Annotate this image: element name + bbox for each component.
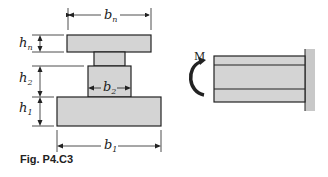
beam-side-view [214,49,315,111]
moment-arrow: M [191,50,206,95]
label-b1: b1 [104,137,117,154]
moment-label: M [194,50,205,63]
figure-caption: Fig. P4.C3 [20,153,73,165]
label-h2: h2 [19,70,32,87]
label-hn: hn [19,35,33,52]
dimension-hn: hn [19,35,64,52]
dimension-h2: h2 [19,66,84,97]
label-h1: h1 [19,100,32,117]
bottom-flange [57,97,161,126]
dimension-b1: b1 [57,130,161,154]
figure-canvas: bn hn h2 h1 b2 [0,0,328,177]
web [94,52,125,66]
wall [305,49,315,111]
dimension-bn: bn [68,7,151,30]
top-flange [67,35,151,52]
beam-body [214,56,305,102]
label-bn: bn [104,7,117,24]
dimension-h1: h1 [19,97,54,126]
